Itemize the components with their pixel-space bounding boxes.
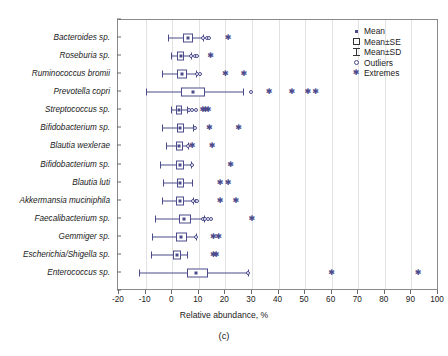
outlier-point bbox=[209, 217, 213, 221]
extreme-point: ✱ bbox=[235, 124, 242, 132]
legend: Mean Mean±SE Mean±SD Outliers ✱ Extremes bbox=[350, 26, 401, 79]
whisker-cap bbox=[166, 143, 167, 150]
mean-marker bbox=[187, 37, 190, 40]
whisker-cap bbox=[162, 125, 163, 132]
extreme-point: ✱ bbox=[206, 124, 213, 132]
whisker-cap bbox=[160, 161, 161, 168]
y-axis-category-label: Escherichia/Shigella sp. bbox=[23, 249, 110, 258]
x-axis-tick bbox=[145, 290, 146, 294]
x-axis-tick bbox=[304, 290, 305, 294]
x-axis-tick bbox=[224, 290, 225, 294]
y-axis-category-label: Bifidobacterium sp. bbox=[40, 123, 110, 132]
extreme-point: ✱ bbox=[249, 215, 256, 223]
y-axis-category-label: Bifidobacterium sp. bbox=[40, 159, 110, 168]
y-axis-category-label: Blautia wexlerae bbox=[50, 141, 110, 150]
whisker-cap bbox=[187, 251, 188, 258]
x-axis-tick bbox=[198, 290, 199, 294]
y-axis-category-label: Roseburia sp. bbox=[59, 51, 110, 60]
legend-item-sd: Mean±SD bbox=[350, 47, 401, 58]
outlier-point bbox=[194, 235, 198, 239]
whisker-cap bbox=[171, 107, 172, 114]
extreme-point: ✱ bbox=[205, 106, 212, 114]
extreme-point: ✱ bbox=[217, 178, 224, 186]
x-axis-tick-label: 50 bbox=[300, 295, 309, 304]
y-axis-tick bbox=[117, 37, 121, 38]
x-axis-tick-label: 10 bbox=[193, 295, 202, 304]
whisker-cap bbox=[192, 179, 193, 186]
mean-marker bbox=[180, 73, 183, 76]
x-axis-tick-label: 20 bbox=[220, 295, 229, 304]
extreme-point: ✱ bbox=[225, 34, 232, 42]
whisker-line bbox=[152, 236, 196, 237]
legend-item-extremes: ✱ Extremes bbox=[350, 68, 401, 79]
x-axis-tick-label: 30 bbox=[246, 295, 255, 304]
extreme-point: ✱ bbox=[222, 70, 229, 78]
mean-marker bbox=[183, 217, 186, 220]
x-axis-tick bbox=[118, 290, 119, 294]
x-axis-tick bbox=[278, 290, 279, 294]
outlier-point bbox=[246, 271, 250, 275]
y-axis-tick bbox=[117, 235, 121, 236]
whisker-icon bbox=[350, 48, 362, 56]
outlier-point bbox=[195, 199, 199, 203]
panel-caption: (c) bbox=[0, 330, 448, 341]
outlier-point bbox=[249, 90, 253, 94]
y-axis-category-label: Enterococcus sp. bbox=[47, 267, 110, 276]
y-axis-tick bbox=[117, 253, 121, 254]
x-axis-tick bbox=[251, 290, 252, 294]
x-axis-tick bbox=[171, 290, 172, 294]
y-axis-labels: Bacteroides sp.Roseburia sp.Ruminococcus… bbox=[0, 19, 114, 290]
x-axis-tick bbox=[331, 290, 332, 294]
y-axis-tick bbox=[117, 217, 121, 218]
x-axis-tick-label: 0 bbox=[169, 295, 174, 304]
mean-marker bbox=[178, 199, 181, 202]
whisker-cap bbox=[168, 35, 169, 42]
y-axis-category-label: Ruminococcus bromii bbox=[32, 69, 110, 78]
y-axis-category-label: Akkermansia muciniphila bbox=[19, 195, 110, 204]
y-axis-tick bbox=[117, 271, 121, 272]
y-axis-tick bbox=[117, 73, 121, 74]
legend-item-mean: Mean bbox=[350, 26, 401, 37]
mean-marker bbox=[178, 163, 181, 166]
y-axis-category-label: Faecalibacterium sp. bbox=[34, 213, 110, 222]
extreme-point: ✱ bbox=[209, 142, 216, 150]
whisker-cap bbox=[171, 53, 172, 60]
legend-label-se: Mean±SE bbox=[364, 37, 401, 47]
figure-panel-c: ✱✱✱✱✱✱✱✱✱✱✱✱✱✱✱✱✱✱✱✱✱✱✱✱✱✱✱ Bacteroides … bbox=[0, 0, 448, 356]
x-axis-tick bbox=[410, 290, 411, 294]
extreme-point: ✱ bbox=[266, 88, 273, 96]
legend-label-mean: Mean bbox=[364, 26, 385, 36]
mean-marker-icon bbox=[350, 30, 362, 33]
mean-marker bbox=[192, 91, 195, 94]
whisker-cap bbox=[243, 89, 244, 96]
y-axis-tick bbox=[117, 19, 121, 20]
y-axis-tick bbox=[117, 199, 121, 200]
y-axis-tick bbox=[117, 127, 121, 128]
mean-marker bbox=[179, 181, 182, 184]
extreme-point: ✱ bbox=[241, 70, 248, 78]
mean-marker bbox=[179, 55, 182, 58]
whisker-cap bbox=[162, 197, 163, 204]
y-axis-tick bbox=[117, 181, 121, 182]
y-axis-category-label: Prevotella copri bbox=[54, 87, 110, 96]
whisker-cap bbox=[151, 251, 152, 258]
y-axis-tick bbox=[117, 55, 121, 56]
y-axis-category-label: Blautia luti bbox=[72, 177, 110, 186]
extreme-point: ✱ bbox=[225, 178, 232, 186]
extreme-point: ✱ bbox=[288, 88, 295, 96]
whisker-cap bbox=[152, 233, 153, 240]
whisker-cap bbox=[162, 71, 163, 78]
x-axis-tick bbox=[384, 290, 385, 294]
y-axis-tick bbox=[117, 109, 121, 110]
outlier-point bbox=[195, 54, 199, 58]
outlier-point bbox=[193, 126, 197, 130]
box-icon bbox=[350, 38, 362, 45]
mean-marker bbox=[180, 235, 183, 238]
mean-marker bbox=[178, 109, 181, 112]
x-axis-title: Relative abundance, % bbox=[0, 310, 448, 320]
legend-item-outliers: Outliers bbox=[350, 58, 401, 69]
x-axis-tick bbox=[437, 290, 438, 294]
whisker-cap bbox=[139, 269, 140, 276]
circle-icon bbox=[350, 60, 362, 65]
mean-marker bbox=[178, 145, 181, 148]
